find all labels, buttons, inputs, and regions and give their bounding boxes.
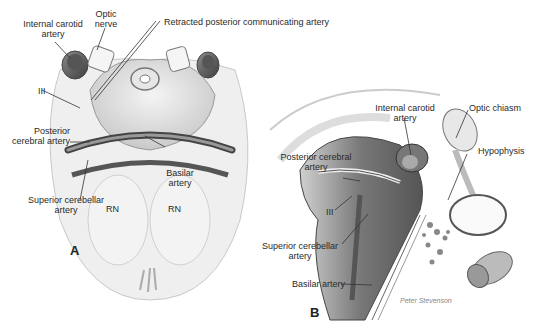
label-line: Superior cerebellar	[260, 241, 340, 251]
label-b-optic-chiasm: Optic chiasm	[469, 103, 521, 113]
panel-a-letter: A	[70, 243, 79, 258]
label-b-hypophysis: Hypophysis	[478, 146, 525, 156]
label-line: artery	[26, 205, 106, 215]
label-a-rn-right: RN	[168, 204, 181, 214]
panel-a-drawing	[42, 21, 248, 300]
label-a-optic-nerve: Optic nerve	[87, 9, 125, 29]
label-a-posterior-cerebral-artery: Posterior cerebral artery	[6, 126, 70, 146]
label-a-internal-carotid-artery: Internal carotid artery	[13, 19, 93, 39]
label-line: artery	[160, 178, 200, 188]
label-a-retracted-pcomm: Retracted posterior communicating artery	[164, 17, 329, 27]
label-line: cerebral artery	[6, 136, 70, 146]
label-line: artery	[260, 251, 340, 261]
artist-signature: Peter Stevenson	[400, 296, 452, 306]
label-line: Posterior cerebral	[276, 152, 356, 162]
label-line: Internal carotid	[365, 103, 445, 113]
label-line: Optic	[87, 9, 125, 19]
label-a-cn3: III	[38, 86, 46, 96]
label-b-cn3: III	[326, 207, 334, 217]
label-line: Superior cerebellar	[26, 195, 106, 205]
label-line: artery	[365, 113, 445, 123]
label-a-rn-left: RN	[106, 204, 119, 214]
label-line: artery	[276, 162, 356, 172]
label-b-basilar-artery: Basilar artery	[292, 279, 345, 289]
label-line: Posterior	[6, 126, 70, 136]
anatomical-illustration	[0, 0, 535, 330]
label-line: Basilar	[160, 168, 200, 178]
label-line: artery	[13, 29, 93, 39]
label-b-superior-cerebellar-artery: Superior cerebellar artery	[260, 241, 340, 261]
label-b-internal-carotid-artery: Internal carotid artery	[365, 103, 445, 123]
panel-b-letter: B	[310, 305, 319, 320]
label-line: nerve	[87, 19, 125, 29]
label-b-posterior-cerebral-artery: Posterior cerebral artery	[276, 152, 356, 172]
label-a-superior-cerebellar-artery: Superior cerebellar artery	[26, 195, 106, 215]
label-a-basilar-artery: Basilar artery	[160, 168, 200, 188]
label-line: Internal carotid	[13, 19, 93, 29]
